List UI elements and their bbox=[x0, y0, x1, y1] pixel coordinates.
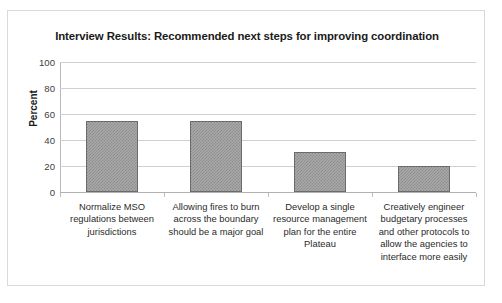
bar bbox=[190, 121, 242, 193]
y-tick-label-100: 100 bbox=[21, 57, 55, 68]
bar bbox=[86, 121, 138, 193]
y-tick-label-80: 80 bbox=[21, 83, 55, 94]
category-tick bbox=[372, 193, 373, 197]
gridline-60 bbox=[60, 114, 476, 115]
category-tick bbox=[60, 193, 61, 197]
category-axis-labels: Normalize MSO regulations between jurisd… bbox=[60, 201, 476, 281]
y-axis-tick-labels: 020406080100 bbox=[8, 62, 55, 192]
category-label: Creatively engineer budgetary processes … bbox=[372, 201, 476, 263]
y-tick-label-60: 60 bbox=[21, 109, 55, 120]
gridline-80 bbox=[60, 88, 476, 89]
category-tick bbox=[268, 193, 269, 197]
y-tick-label-20: 20 bbox=[21, 161, 55, 172]
y-tick-label-40: 40 bbox=[21, 135, 55, 146]
category-label: Develop a single resource management pla… bbox=[268, 201, 372, 251]
category-tick bbox=[164, 193, 165, 197]
plot-area bbox=[60, 62, 476, 192]
chart-title: Interview Results: Recommended next step… bbox=[8, 30, 486, 42]
bar bbox=[398, 166, 450, 192]
gridline-100 bbox=[60, 62, 476, 63]
y-tick-label-0: 0 bbox=[21, 187, 55, 198]
category-label: Allowing fires to burn across the bounda… bbox=[164, 201, 268, 238]
category-tick bbox=[476, 193, 477, 197]
category-label: Normalize MSO regulations between jurisd… bbox=[60, 201, 164, 238]
chart-container: Interview Results: Recommended next step… bbox=[7, 10, 485, 286]
bar bbox=[294, 152, 346, 192]
